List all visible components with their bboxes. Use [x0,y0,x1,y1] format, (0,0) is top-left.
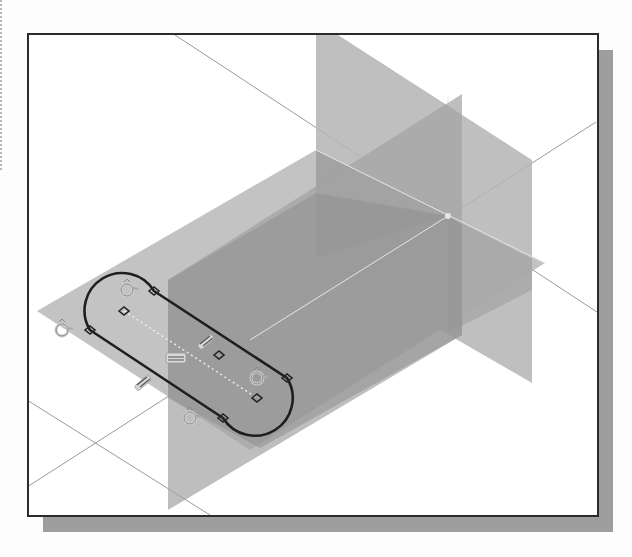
cad-viewport[interactable]: 3D CAD sketch viewport showing three dat… [27,33,599,517]
frame-shadow-right [598,50,613,532]
origin-point [445,213,451,219]
frame-shadow-bottom [43,516,613,532]
horizontal-constraint-icon [166,353,186,363]
page-edge-dotted-line [0,0,2,170]
scene-canvas [27,33,599,517]
